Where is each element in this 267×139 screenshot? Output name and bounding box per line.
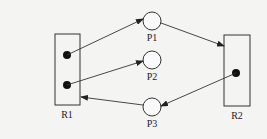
edge-r1-p2	[67, 61, 143, 85]
label-p3: P3	[147, 119, 158, 129]
edge-p3-r1	[81, 97, 143, 105]
label-r2: R2	[231, 111, 243, 121]
edge-r1-p1	[67, 19, 143, 55]
edge-r2-p3	[161, 73, 236, 106]
resource-r1	[55, 34, 80, 105]
process-p3	[143, 98, 161, 116]
diagram-canvas: P1 P2 P3 R1 R2	[0, 0, 267, 139]
label-p1: P1	[147, 33, 158, 43]
edge-p1-r2	[161, 23, 224, 46]
diagram-graphics	[0, 0, 267, 139]
resource-r2	[224, 35, 250, 106]
label-r1: R1	[61, 110, 73, 120]
process-p2	[143, 51, 161, 69]
process-p1	[143, 12, 161, 30]
label-p2: P2	[147, 72, 158, 82]
